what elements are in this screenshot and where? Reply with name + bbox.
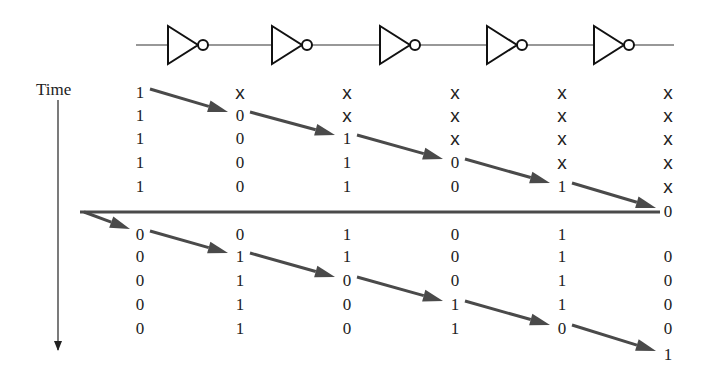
propagation-arrow xyxy=(465,301,550,325)
logic-value: 0 xyxy=(136,320,145,337)
logic-value: x xyxy=(235,83,245,102)
logic-value: 0 xyxy=(236,226,245,243)
logic-value: 0 xyxy=(343,320,352,337)
logic-value: 1 xyxy=(136,178,145,195)
logic-value: 1 xyxy=(343,178,352,195)
logic-value: 0 xyxy=(664,320,673,337)
logic-value: 1 xyxy=(558,248,567,265)
logic-value: 1 xyxy=(343,130,352,147)
logic-value: 1 xyxy=(558,296,567,313)
logic-value: 1 xyxy=(136,107,145,124)
logic-value: 1 xyxy=(451,320,460,337)
logic-value: x xyxy=(342,106,352,125)
logic-value: 1 xyxy=(343,248,352,265)
logic-value: 1 xyxy=(343,226,352,243)
inverter-bubble-icon xyxy=(198,40,208,50)
logic-value: 1 xyxy=(558,226,567,243)
propagation-arrow xyxy=(250,112,335,136)
propagation-arrow xyxy=(84,212,130,229)
logic-value: 1 xyxy=(558,272,567,289)
logic-value: 0 xyxy=(136,248,145,265)
propagation-arrow xyxy=(572,325,656,351)
inverter-gate-3 xyxy=(380,26,420,64)
logic-value: 0 xyxy=(558,320,567,337)
propagation-arrow xyxy=(250,253,335,277)
logic-value: x xyxy=(450,129,460,148)
logic-value: 0 xyxy=(236,107,245,124)
logic-value: 0 xyxy=(451,248,460,265)
logic-value: 0 xyxy=(451,272,460,289)
propagation-arrow xyxy=(357,277,443,301)
logic-value: x xyxy=(663,177,673,196)
logic-value: 0 xyxy=(136,226,145,243)
inverter-chain xyxy=(136,26,674,64)
logic-value: 1 xyxy=(236,248,245,265)
logic-value: 1 xyxy=(236,296,245,313)
inverter-bubble-icon xyxy=(517,40,527,50)
logic-value: 1 xyxy=(136,130,145,147)
propagation-arrow xyxy=(150,89,228,112)
logic-value: 1 xyxy=(136,84,145,101)
propagation-arrow xyxy=(572,183,656,208)
logic-value: x xyxy=(557,153,567,172)
logic-value: 0 xyxy=(451,226,460,243)
logic-value: x xyxy=(663,83,673,102)
logic-value: 1 xyxy=(558,178,567,195)
logic-value: 0 xyxy=(451,178,460,195)
inverter-bubble-icon xyxy=(302,40,312,50)
logic-value: 0 xyxy=(343,296,352,313)
propagation-arrow xyxy=(150,231,228,253)
logic-value: 0 xyxy=(136,272,145,289)
inverter-gate-1 xyxy=(168,26,208,64)
propagation-arrow xyxy=(357,135,443,159)
final-value: 1 xyxy=(664,346,673,363)
logic-value: 0 xyxy=(664,248,673,265)
logic-value: x xyxy=(557,106,567,125)
inverter-bubble-icon xyxy=(410,40,420,50)
logic-value: 1 xyxy=(451,296,460,313)
logic-value: x xyxy=(663,129,673,148)
propagation-arrows xyxy=(80,89,660,351)
inverter-gate-5 xyxy=(594,26,634,64)
diagram-canvas xyxy=(0,0,718,376)
logic-value: 1 xyxy=(236,320,245,337)
inverter-bubble-icon xyxy=(624,40,634,50)
inverter-gate-4 xyxy=(487,26,527,64)
logic-value: 0 xyxy=(343,272,352,289)
time-label: Time xyxy=(36,80,71,100)
logic-value: 1 xyxy=(136,154,145,171)
logic-value: x xyxy=(663,153,673,172)
logic-value: x xyxy=(663,106,673,125)
logic-value: x xyxy=(450,83,460,102)
logic-value: x xyxy=(557,83,567,102)
ring-oscillator-diagram: Time 1xxxxx10xxxx101xxx1010xx10101x00101… xyxy=(0,0,718,376)
inverter-gate-2 xyxy=(272,26,312,64)
logic-value: 0 xyxy=(451,154,460,171)
logic-value: x xyxy=(557,129,567,148)
feedback-value: 0 xyxy=(664,203,673,220)
logic-value: 0 xyxy=(664,296,673,313)
logic-value: x xyxy=(342,83,352,102)
logic-value: 0 xyxy=(664,272,673,289)
propagation-arrow xyxy=(465,159,550,183)
logic-value: 1 xyxy=(343,154,352,171)
logic-value: 0 xyxy=(236,130,245,147)
logic-value: 0 xyxy=(236,154,245,171)
logic-value: 1 xyxy=(236,272,245,289)
logic-value: 0 xyxy=(236,178,245,195)
logic-value: x xyxy=(450,106,460,125)
logic-value: 0 xyxy=(136,296,145,313)
